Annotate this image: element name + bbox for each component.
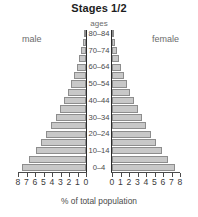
age-band-labels: 0–410–1420–2430–3440–4450–5460–6470–7480… [86,30,112,172]
ages-axis-label: ages [0,19,198,28]
population-pyramid-chart: Stages 1/2 ages male female 0–410–1420–2… [0,0,198,217]
pyramid-band [18,63,86,71]
pyramid-band [112,130,180,138]
age-label-30-34: 30–34 [86,114,112,122]
bar-female-65-69 [112,55,119,62]
pyramid-band [112,113,180,121]
pyramid-band [112,47,180,55]
pyramid-band [18,122,86,130]
bar-female-50-54 [112,80,127,87]
bar-male-0-4 [22,164,86,171]
bar-male-65-69 [79,55,86,62]
age-label-40-44: 40–44 [86,97,112,105]
bar-female-0-4 [112,164,175,171]
pyramid-band [112,63,180,71]
pyramid-band [112,122,180,130]
bar-female-60-64 [112,64,121,71]
x-axis-caption: % of total population [0,196,198,206]
bar-male-55-59 [74,72,86,79]
pyramid-band [18,97,86,105]
bar-male-30-34 [56,114,86,121]
bar-female-10-14 [112,147,162,154]
bar-female-30-34 [112,114,142,121]
pyramid-band [112,88,180,96]
tick-label-0: 0 [81,177,91,187]
bar-male-45-49 [68,89,86,96]
pyramid-band [112,30,180,38]
female-axis-tick-labels: 012345678 [112,177,180,189]
bar-male-25-29 [51,122,86,129]
bar-female-40-44 [112,97,134,104]
pyramid-band [18,47,86,55]
pyramid-band [18,164,86,172]
bar-female-45-49 [112,89,130,96]
age-label-50-54: 50–54 [86,80,112,88]
pyramid-band [18,55,86,63]
bar-female-20-24 [112,131,151,138]
pyramid-band [18,138,86,146]
bar-male-40-44 [64,97,86,104]
bar-male-20-24 [46,131,86,138]
bar-male-35-39 [60,105,86,112]
pyramid-band [112,155,180,163]
age-label-0-4: 0–4 [86,164,112,172]
pyramid-band [18,113,86,121]
pyramid-band [18,72,86,80]
tick-label-8: 8 [175,177,185,187]
chart-title: Stages 1/2 [0,2,198,14]
pyramid-band [112,105,180,113]
bar-female-25-29 [112,122,146,129]
bar-male-15-19 [41,139,86,146]
pyramid-band [112,147,180,155]
male-axis-tick-labels: 876543210 [18,177,86,189]
pyramid-band [112,138,180,146]
pyramid-band [18,38,86,46]
age-label-60-64: 60–64 [86,63,112,71]
bar-female-75-79 [112,39,115,46]
bar-male-60-64 [77,64,86,71]
pyramid-band [112,164,180,172]
age-label-10-14: 10–14 [86,147,112,155]
pyramid-band [18,30,86,38]
pyramid-band [18,147,86,155]
bar-male-5-9 [29,156,86,163]
pyramid-band [112,72,180,80]
bar-female-5-9 [112,156,168,163]
age-label-20-24: 20–24 [86,130,112,138]
pyramid-band [112,55,180,63]
pyramid-band [112,80,180,88]
age-label-70-74: 70–74 [86,47,112,55]
pyramid-band [18,130,86,138]
female-bars-panel [112,30,180,172]
pyramid-band [18,155,86,163]
pyramid-band [18,105,86,113]
bar-female-35-39 [112,105,138,112]
male-bars-panel [18,30,86,172]
pyramid-band [112,97,180,105]
bar-female-70-74 [112,47,117,54]
bar-female-55-59 [112,72,124,79]
bar-male-10-14 [36,147,86,154]
bar-female-15-19 [112,139,156,146]
pyramid-band [112,38,180,46]
age-label-80-84: 80–84 [86,30,112,38]
bar-male-50-54 [71,80,86,87]
pyramid-band [18,88,86,96]
pyramid-band [18,80,86,88]
bar-female-80-84 [112,30,114,37]
